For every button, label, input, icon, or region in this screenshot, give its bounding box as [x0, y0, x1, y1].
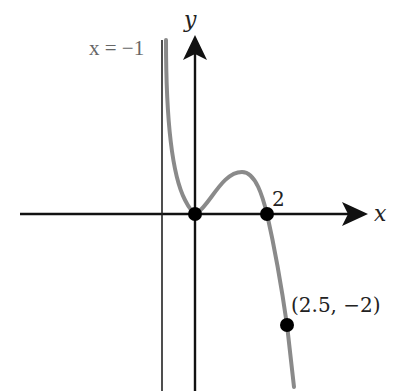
intercept-label-2: 2: [272, 187, 285, 211]
x-axis-label: x: [374, 201, 387, 226]
point-label: (2.5, −2): [291, 293, 381, 317]
asymptote-label: x = −1: [89, 36, 144, 60]
graph-canvas: y x x = −1 2 (2.5, −2): [0, 0, 393, 391]
point-origin: [188, 207, 202, 221]
y-axis-label: y: [183, 7, 197, 32]
point-2-5-neg2: [280, 318, 294, 332]
